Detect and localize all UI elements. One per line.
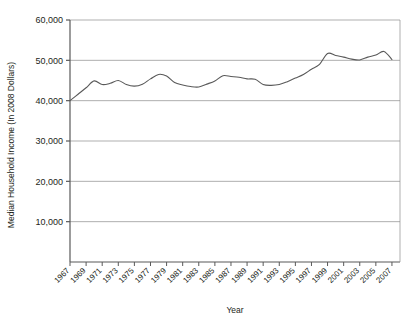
y-tick-label: 30,000 xyxy=(35,136,63,146)
chart-figure: 60,00050,00040,00030,00020,00010,000 196… xyxy=(0,0,414,320)
y-tick-label: 60,000 xyxy=(35,15,63,25)
y-tick-label: 40,000 xyxy=(35,96,63,106)
line-chart: 60,00050,00040,00030,00020,00010,000 196… xyxy=(0,0,414,320)
y-axis-title: Median Household Income (In 2008 Dollars… xyxy=(6,62,16,228)
x-axis-title: Year xyxy=(226,305,243,315)
y-tick-label: 10,000 xyxy=(35,217,63,227)
y-tick-label: 20,000 xyxy=(35,177,63,187)
y-tick-label: 50,000 xyxy=(35,56,63,66)
